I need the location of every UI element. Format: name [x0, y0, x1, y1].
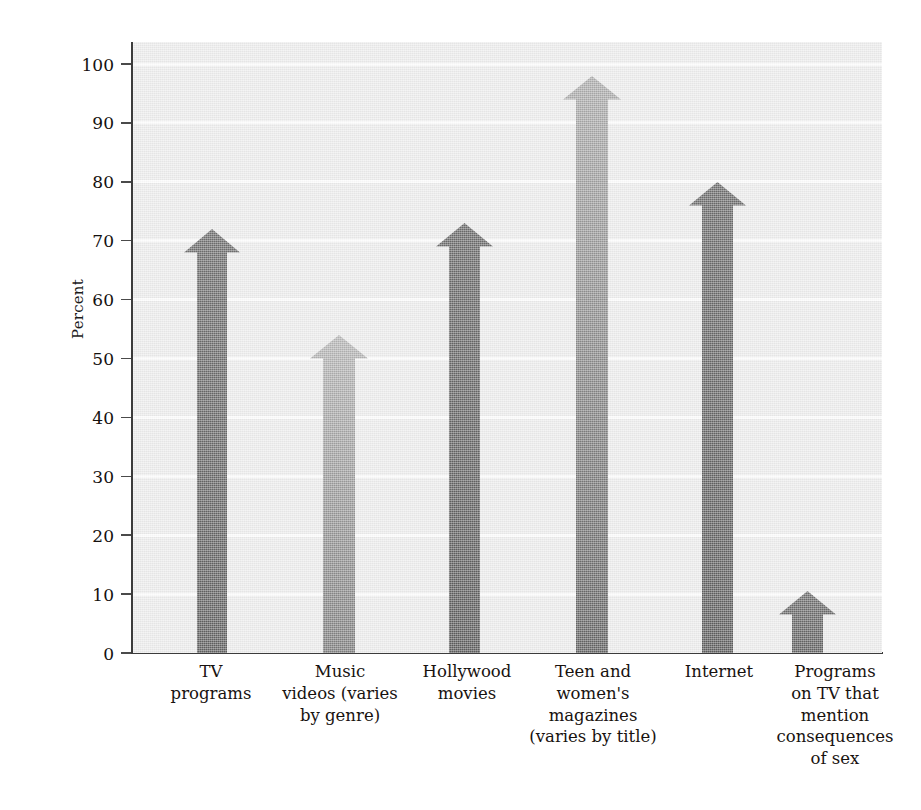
gridline	[133, 298, 882, 301]
bar-arrow	[436, 223, 493, 653]
x-axis-label-line: of sex	[752, 748, 918, 770]
y-axis-tick-label: 10	[92, 586, 121, 603]
gridline	[133, 475, 882, 478]
x-axis-label: Programson TV thatmentionconsequencesof …	[752, 661, 918, 770]
bar-arrow	[310, 335, 368, 653]
bar-arrow	[689, 182, 746, 653]
y-axis-tick-label: 60	[92, 292, 121, 309]
gridline	[133, 357, 882, 360]
y-axis-tick-label: 100	[82, 56, 121, 73]
y-axis-tick-label: 30	[92, 468, 121, 485]
x-axis-label-line: Programs	[752, 661, 918, 683]
x-axis-label-line: mention	[752, 705, 918, 727]
gridline	[133, 63, 882, 66]
bar-arrow	[779, 591, 836, 653]
y-axis-tick-label: 40	[92, 409, 121, 426]
y-axis-tick-label: 0	[103, 645, 121, 662]
gridline	[133, 593, 882, 596]
y-axis-tick-label: 90	[92, 115, 121, 132]
x-axis-label-line: magazines	[508, 705, 678, 727]
gridline	[133, 180, 882, 183]
x-axis-label-line: women's	[508, 683, 678, 705]
bar-arrow	[184, 229, 240, 653]
percent-chart: Percent 1009080706050403020100 TVprogram…	[0, 0, 921, 810]
x-axis-label-line: (varies by title)	[508, 726, 678, 748]
gridline	[133, 239, 882, 242]
x-axis-label-group: TVprogramsMusicvideos (variesby genre)Ho…	[0, 661, 921, 810]
bar-arrow	[563, 76, 621, 653]
y-axis-tick-label: 80	[92, 174, 121, 191]
gridline	[133, 534, 882, 537]
gridline	[133, 416, 882, 419]
paper-texture	[133, 42, 882, 653]
y-axis-tick-label: 20	[92, 527, 121, 544]
x-axis-label-line: on TV that	[752, 683, 918, 705]
x-axis-label-line: consequences	[752, 726, 918, 748]
plot-area	[133, 42, 882, 653]
y-axis-tick-label: 50	[92, 351, 121, 368]
y-axis-tick-label: 70	[92, 233, 121, 250]
x-axis-label-line: by genre)	[257, 705, 423, 727]
gridline	[133, 121, 882, 124]
